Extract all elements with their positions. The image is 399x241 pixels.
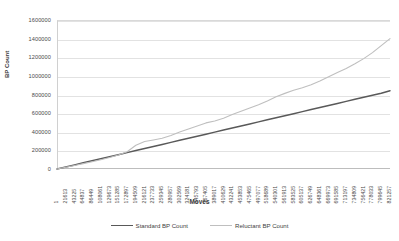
- legend-swatch: [210, 225, 232, 226]
- y-axis-tick-label: 600000: [32, 110, 51, 116]
- series-layer: [57, 20, 390, 169]
- y-axis-tick-label: 200000: [32, 147, 51, 153]
- legend-label: Reluctant BP Count: [235, 222, 288, 229]
- series-line: [57, 39, 390, 169]
- y-axis-labels: 0200000400000600000800000100000012000001…: [0, 0, 54, 189]
- y-axis-tick-label: 1200000: [29, 54, 51, 60]
- legend-label: Standard BP Count: [136, 222, 188, 229]
- y-axis-tick-label: 800000: [32, 92, 51, 98]
- y-axis-tick-label: 1000000: [29, 73, 51, 79]
- legend-swatch: [111, 225, 133, 226]
- y-axis-tick-label: 0: [48, 166, 51, 172]
- series-line: [57, 91, 390, 169]
- legend-item[interactable]: Standard BP Count: [111, 222, 188, 229]
- legend-item[interactable]: Reluctant BP Count: [210, 222, 288, 229]
- x-axis-title: Moves: [0, 198, 399, 205]
- y-axis-tick-label: 400000: [32, 129, 51, 135]
- y-axis-tick-label: 1600000: [29, 17, 51, 23]
- chart-legend: Standard BP CountReluctant BP Count: [0, 222, 399, 229]
- chart-container: BP Count 0200000400000600000800000100000…: [0, 0, 399, 241]
- y-axis-tick-label: 1400000: [29, 36, 51, 42]
